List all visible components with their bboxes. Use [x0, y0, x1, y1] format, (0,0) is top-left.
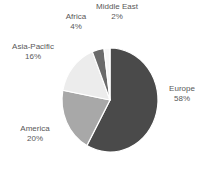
pie-label-africa-value: 4% [56, 22, 96, 32]
pie-label-europe-name: Europe [158, 84, 206, 94]
pie-label-america: America 20% [6, 124, 64, 143]
pie-chart-figure: Europe 58% America 20% Asia-Pacific 16% … [0, 0, 208, 173]
pie-label-middle-east-name: Middle East [96, 2, 138, 12]
pie-slice-group [62, 48, 158, 152]
pie-label-africa-name: Africa [56, 12, 96, 22]
pie-label-africa: Africa 4% [56, 12, 96, 31]
pie-label-middle-east-value: 2% [96, 12, 138, 22]
pie-label-europe-value: 58% [158, 94, 206, 104]
pie-label-asia-pacific: Asia-Pacific 16% [2, 42, 64, 61]
pie-label-europe: Europe 58% [158, 84, 206, 103]
pie-label-america-value: 20% [6, 134, 64, 144]
pie-label-asia-pacific-name: Asia-Pacific [2, 42, 64, 52]
pie-label-asia-pacific-value: 16% [2, 52, 64, 62]
pie-label-middle-east: Middle East 2% [96, 2, 138, 21]
pie-label-america-name: America [6, 124, 64, 134]
